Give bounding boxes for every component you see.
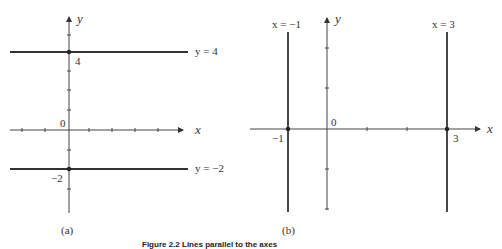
figure-caption: Figure 2.2 Lines parallel to the axes xyxy=(142,240,277,249)
point-3-0 xyxy=(445,127,449,131)
point-0-neg2 xyxy=(67,167,71,171)
tick-label-4: 4 xyxy=(75,55,81,67)
equation-y-4: y = 4 xyxy=(195,45,218,57)
y-axis-label: y xyxy=(75,11,83,26)
x-axis-label: x xyxy=(486,121,493,136)
y-axis-label: y xyxy=(333,11,341,26)
panel-b-label: (b) xyxy=(282,224,295,237)
tick-label-neg2: −2 xyxy=(51,172,63,184)
equation-x-3: x = 3 xyxy=(432,18,455,30)
equation-y-neg2: y = −2 xyxy=(195,162,224,174)
point-0-4 xyxy=(67,50,71,54)
origin-label: 0 xyxy=(331,116,337,128)
x-axis-label: x xyxy=(194,122,201,137)
equation-x-neg1: x = −1 xyxy=(272,18,301,30)
tick-label-neg1: −1 xyxy=(272,132,284,144)
point-neg1-0 xyxy=(286,127,290,131)
tick-label-3: 3 xyxy=(453,132,459,144)
panel-a: y x 0 4 −2 y = 4 y = −2 (a) xyxy=(10,11,224,237)
panel-b: y x 0 −1 3 x = −1 x = 3 (b) xyxy=(250,11,493,237)
panel-a-label: (a) xyxy=(61,224,74,237)
origin-label: 0 xyxy=(60,117,66,129)
